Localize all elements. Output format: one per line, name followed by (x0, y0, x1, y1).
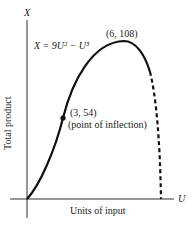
maximum-point-label: (6, 108) (106, 29, 138, 39)
total-product-curve-dashed (150, 72, 161, 199)
y-axis-label: Total product (2, 97, 13, 150)
total-product-diagram (0, 0, 194, 225)
x-axis-symbol: U (178, 194, 185, 204)
equation-label: X = 9U² − U³ (34, 41, 89, 51)
y-axis-symbol: X (24, 8, 30, 18)
inflection-note: (point of inflection) (68, 120, 147, 130)
inflection-point-marker (60, 115, 65, 120)
inflection-point-label: (3, 54) (70, 108, 97, 118)
x-axis-label: Units of input (70, 206, 126, 216)
